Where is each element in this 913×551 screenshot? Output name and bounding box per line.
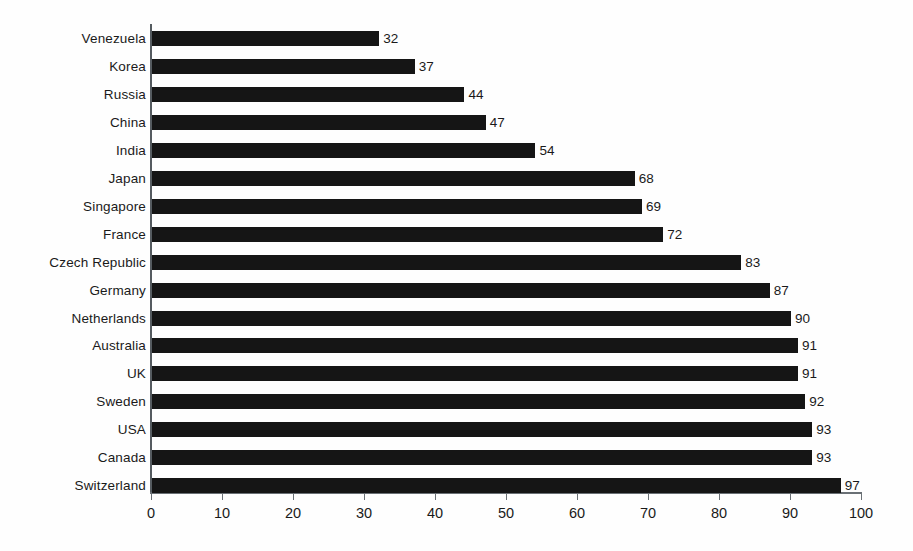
bar-row: China47 xyxy=(0,115,913,143)
bar-row: Canada93 xyxy=(0,450,913,478)
x-tick-mark xyxy=(861,494,862,500)
category-label: Singapore xyxy=(83,199,146,214)
bar-value-label: 47 xyxy=(490,115,505,130)
bar-row: Switzerland97 xyxy=(0,478,913,506)
category-label: Venezuela xyxy=(82,31,146,46)
bar-value-label: 72 xyxy=(667,227,682,242)
x-tick-mark xyxy=(648,494,649,500)
bar-row: Korea37 xyxy=(0,59,913,87)
category-label: Korea xyxy=(109,59,146,74)
bar xyxy=(152,143,535,158)
bar xyxy=(152,422,812,437)
category-label: Australia xyxy=(92,338,146,353)
x-tick-mark xyxy=(719,494,720,500)
bar xyxy=(152,478,841,493)
x-tick-mark xyxy=(790,494,791,500)
bar-value-label: 91 xyxy=(802,366,817,381)
bar-value-label: 97 xyxy=(845,478,860,493)
bar xyxy=(152,31,379,46)
x-tick-mark xyxy=(151,494,152,500)
bar-value-label: 32 xyxy=(383,31,398,46)
category-label: Germany xyxy=(89,283,146,298)
category-label: Canada xyxy=(98,450,146,465)
bar xyxy=(152,115,486,130)
x-tick-label: 90 xyxy=(760,503,820,523)
x-tick-mark xyxy=(293,494,294,500)
category-label: USA xyxy=(118,422,146,437)
x-tick-mark xyxy=(222,494,223,500)
category-label: Russia xyxy=(104,87,146,102)
category-label: Sweden xyxy=(96,394,146,409)
category-label: India xyxy=(116,143,146,158)
plot-area: Venezuela32Korea37Russia44China47India54… xyxy=(0,0,913,551)
bar xyxy=(152,227,663,242)
x-tick-mark xyxy=(364,494,365,500)
bar-row: Japan68 xyxy=(0,171,913,199)
bar-value-label: 90 xyxy=(795,311,810,326)
category-label: Czech Republic xyxy=(49,255,146,270)
bar-row: Singapore69 xyxy=(0,199,913,227)
x-tick-label: 70 xyxy=(618,503,678,523)
bar-value-label: 87 xyxy=(774,283,789,298)
bar-row: Netherlands90 xyxy=(0,311,913,339)
bar-row: USA93 xyxy=(0,422,913,450)
bar-row: France72 xyxy=(0,227,913,255)
bar-row: Czech Republic83 xyxy=(0,255,913,283)
bar-value-label: 91 xyxy=(802,338,817,353)
bar-row: Germany87 xyxy=(0,283,913,311)
bar-row: India54 xyxy=(0,143,913,171)
x-tick-label: 100 xyxy=(831,503,891,523)
x-tick-label: 20 xyxy=(263,503,323,523)
bar xyxy=(152,255,741,270)
bar xyxy=(152,87,464,102)
x-tick-mark xyxy=(577,494,578,500)
bar-value-label: 69 xyxy=(646,199,661,214)
category-label: France xyxy=(103,227,146,242)
bar-value-label: 54 xyxy=(539,143,554,158)
bar-row: Australia91 xyxy=(0,338,913,366)
bar-value-label: 83 xyxy=(745,255,760,270)
category-label: China xyxy=(110,115,146,130)
x-tick-label: 60 xyxy=(547,503,607,523)
x-tick-label: 10 xyxy=(192,503,252,523)
bar xyxy=(152,338,798,353)
bar xyxy=(152,311,791,326)
bar xyxy=(152,450,812,465)
bar xyxy=(152,283,770,298)
bar-value-label: 68 xyxy=(639,171,654,186)
bar-row: Russia44 xyxy=(0,87,913,115)
x-tick-label: 30 xyxy=(334,503,394,523)
x-tick-label: 40 xyxy=(405,503,465,523)
bar xyxy=(152,366,798,381)
bar-row: Sweden92 xyxy=(0,394,913,422)
x-tick-label: 0 xyxy=(121,503,181,523)
x-tick-label: 80 xyxy=(689,503,749,523)
bar-value-label: 37 xyxy=(419,59,434,74)
category-label: UK xyxy=(127,366,146,381)
bar xyxy=(152,394,805,409)
bar xyxy=(152,59,415,74)
bar-value-label: 93 xyxy=(816,422,831,437)
bar-chart: Venezuela32Korea37Russia44China47India54… xyxy=(0,0,913,551)
category-label: Netherlands xyxy=(72,311,146,326)
bar-value-label: 93 xyxy=(816,450,831,465)
bar-row: UK91 xyxy=(0,366,913,394)
bar-value-label: 44 xyxy=(468,87,483,102)
x-tick-label: 50 xyxy=(476,503,536,523)
category-label: Japan xyxy=(108,171,146,186)
category-label: Switzerland xyxy=(75,478,146,493)
x-tick-mark xyxy=(435,494,436,500)
x-tick-mark xyxy=(506,494,507,500)
bar xyxy=(152,171,635,186)
bar-value-label: 92 xyxy=(809,394,824,409)
bar xyxy=(152,199,642,214)
bar-row: Venezuela32 xyxy=(0,31,913,59)
